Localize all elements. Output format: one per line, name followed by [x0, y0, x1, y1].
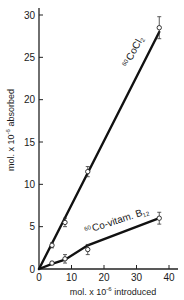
chart: 051015202530 010203040 mol. x 10-6 intro…: [0, 0, 184, 300]
data-point: [50, 243, 54, 247]
fit-line: [39, 32, 159, 269]
data-point: [63, 257, 67, 261]
y-axis-title: mol. x 10-6 absorbed: [5, 89, 16, 171]
y-tick-label: 20: [24, 94, 36, 105]
data-point: [86, 169, 90, 173]
y-tick-label: 25: [24, 52, 36, 63]
x-tick-label: 40: [163, 272, 175, 283]
y-tick-label: 15: [24, 137, 36, 148]
data-point: [50, 261, 54, 265]
y-tick-label: 10: [24, 179, 36, 190]
x-tick-label: 10: [66, 272, 78, 283]
y-tick-label: 0: [29, 264, 35, 275]
data-point: [157, 26, 161, 30]
y-tick-label: 30: [24, 10, 36, 21]
labels: mol. x 10-6 introducedmol. x 10-6 absorb…: [5, 34, 156, 297]
data-point: [86, 247, 90, 251]
x-tick-label: 20: [98, 272, 110, 283]
y-tick-label: 5: [29, 221, 35, 232]
y-axis: 051015202530: [24, 8, 43, 275]
x-axis: 010203040: [36, 265, 178, 283]
x-tick-label: 0: [36, 272, 42, 283]
x-tick-label: 30: [131, 272, 143, 283]
series-label-vitb12: 60Co-vitam. B12: [83, 205, 151, 237]
data-point: [157, 216, 161, 220]
data-point: [63, 220, 67, 224]
x-axis-title: mol. x 10-6 introduced: [70, 286, 156, 297]
